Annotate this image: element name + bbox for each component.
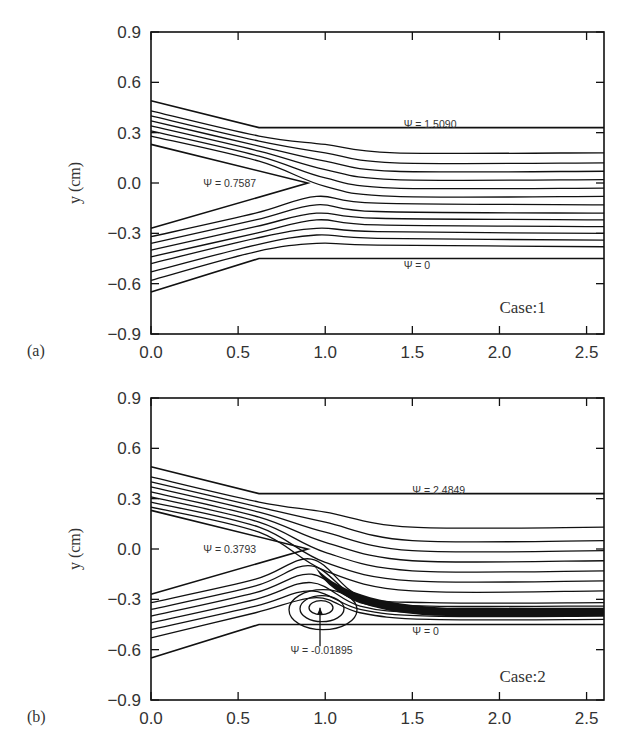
case-label: Case:2 xyxy=(499,667,545,686)
streamline xyxy=(151,196,604,237)
y-tick-label: 0.3 xyxy=(117,124,141,143)
streamline xyxy=(151,243,604,280)
panel-label: (a) xyxy=(27,342,45,360)
y-tick-label: −0.3 xyxy=(107,590,141,609)
x-tick-label: 1.0 xyxy=(313,343,337,362)
psi-annotation: Ψ = 0.7587 xyxy=(203,177,256,189)
y-tick-label: −0.3 xyxy=(107,224,141,243)
streamlines xyxy=(151,111,604,280)
lower-wall xyxy=(151,625,604,659)
psi-annotation: Ψ = 0 xyxy=(404,259,431,271)
y-tick-label: 0.6 xyxy=(117,439,141,458)
case-label: Case:1 xyxy=(499,298,545,317)
psi-annotation: Ψ = 1.5090 xyxy=(404,118,457,130)
upper-wall xyxy=(151,101,604,128)
y-tick-label: 0.0 xyxy=(117,174,141,193)
streamline xyxy=(151,235,604,272)
lower-wall xyxy=(151,259,604,293)
psi-annotation: Ψ = 2.4849 xyxy=(412,484,465,496)
y-tick-label: 0.3 xyxy=(117,490,141,509)
psi-annotation: Ψ = -0.01895 xyxy=(290,644,352,656)
y-tick-label: 0.6 xyxy=(117,73,141,92)
streamline xyxy=(151,559,604,603)
x-tick-label: 0.5 xyxy=(226,709,250,728)
y-tick-label: 0.9 xyxy=(117,23,141,42)
streamline xyxy=(151,205,604,244)
x-tick-label: 0.5 xyxy=(226,343,250,362)
x-tick-label: 2.0 xyxy=(488,343,512,362)
y-axis-label: y (cm) xyxy=(66,528,84,570)
x-tick-label: 2.0 xyxy=(488,709,512,728)
panel-a: 0.00.51.01.52.02.50.90.60.30.0−0.3−0.6−0… xyxy=(0,0,631,366)
y-tick-label: −0.9 xyxy=(107,691,141,710)
y-tick-label: −0.6 xyxy=(107,641,141,660)
y-tick-label: 0.0 xyxy=(117,540,141,559)
arrow-head-icon xyxy=(317,608,323,615)
streamline xyxy=(151,116,604,164)
x-tick-label: 1.5 xyxy=(401,709,425,728)
x-tick-label: 2.5 xyxy=(575,709,599,728)
x-tick-label: 2.5 xyxy=(575,343,599,362)
y-tick-label: −0.6 xyxy=(107,275,141,294)
panel-b: 0.00.51.01.52.02.50.90.60.30.0−0.3−0.6−0… xyxy=(0,366,631,732)
upper-wall xyxy=(151,467,604,494)
panel-label: (b) xyxy=(27,708,46,726)
psi-annotation: Ψ = 0.3793 xyxy=(203,543,256,555)
streamline xyxy=(151,497,604,572)
x-tick-label: 1.0 xyxy=(313,709,337,728)
chart-b-svg: 0.00.51.01.52.02.50.90.60.30.0−0.3−0.6−0… xyxy=(0,366,631,751)
x-tick-label: 0.0 xyxy=(139,709,163,728)
x-tick-label: 0.0 xyxy=(139,343,163,362)
x-tick-label: 1.5 xyxy=(401,343,425,362)
y-tick-label: 0.9 xyxy=(117,389,141,408)
psi-annotation: Ψ = 0 xyxy=(412,625,439,637)
y-tick-label: −0.9 xyxy=(107,325,141,344)
chart-a-svg: 0.00.51.01.52.02.50.90.60.30.0−0.3−0.6−0… xyxy=(0,0,631,366)
y-axis-label: y (cm) xyxy=(66,162,84,204)
